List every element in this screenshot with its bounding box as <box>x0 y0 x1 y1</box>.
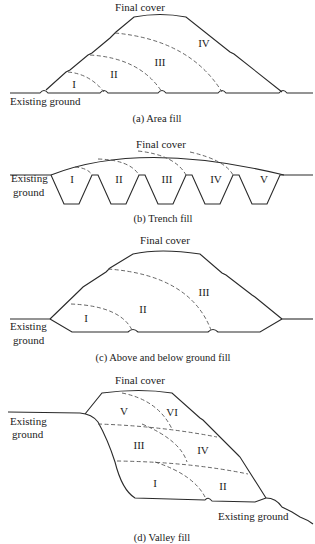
cell-boundary-1 <box>75 167 92 175</box>
cell-boundary-upper <box>122 393 172 429</box>
landfill-methods-diagram: Final cover Existing ground I II III IV … <box>0 0 315 544</box>
cell-label: III <box>134 439 145 451</box>
cell-label: II <box>139 303 147 315</box>
final-cover-label: Final cover <box>115 1 165 13</box>
cell-boundary-middle <box>142 424 187 462</box>
existing-ground-label: Existing <box>11 172 48 184</box>
panel-above-below-ground-fill: Final cover Existing ground I II III (c)… <box>10 234 313 364</box>
existing-ground-label: Existing ground <box>218 510 289 522</box>
cell-label: I <box>153 477 157 489</box>
existing-ground-label: Existing ground <box>10 95 81 107</box>
lift-boundary-lower <box>117 461 248 474</box>
fill-outline <box>46 15 282 93</box>
cell-boundary-lower <box>155 462 206 499</box>
cell-label: IV <box>198 37 210 49</box>
panel-trench-fill: Final cover Existing ground I II III IV … <box>10 138 313 225</box>
existing-ground-label: ground <box>13 334 45 346</box>
cell-label: II <box>115 173 123 185</box>
lift-boundary-upper <box>98 424 217 437</box>
cell-label: I <box>84 312 88 324</box>
cell-boundary-2 <box>108 269 211 330</box>
existing-ground-label: Existing <box>10 415 47 427</box>
existing-ground-left <box>8 412 266 502</box>
panel-caption: (b) Trench fill <box>134 213 193 225</box>
cell-label: VI <box>166 406 178 418</box>
panel-area-fill: Final cover Existing ground I II III IV … <box>10 1 313 125</box>
cell-label: V <box>120 405 128 417</box>
existing-ground-label: ground <box>13 186 45 198</box>
fill-outline <box>50 251 282 319</box>
panel-valley-fill: Final cover Existing ground Existing gro… <box>8 374 313 544</box>
cell-boundary-1 <box>71 304 132 330</box>
cell-label: III <box>155 56 166 68</box>
cell-boundary-2 <box>90 55 162 92</box>
cell-label: IV <box>210 173 222 185</box>
panel-caption: (d) Valley fill <box>134 532 190 544</box>
existing-ground-label: ground <box>12 428 44 440</box>
cell-label: II <box>219 480 227 492</box>
final-cover-label: Final cover <box>115 374 165 386</box>
final-cover-label: Final cover <box>136 138 186 150</box>
cell-label: III <box>162 173 173 185</box>
cell-label: IV <box>197 444 209 456</box>
cell-label: III <box>199 286 210 298</box>
panel-caption: (c) Above and below ground fill <box>95 352 230 364</box>
final-cover-label: Final cover <box>140 234 190 246</box>
cell-label: II <box>110 68 118 80</box>
cell-label: V <box>260 173 268 185</box>
existing-ground-line <box>10 91 313 94</box>
cell-boundary-3 <box>138 151 186 175</box>
existing-ground-label: Existing <box>10 320 47 332</box>
panel-caption: (a) Area fill <box>133 113 182 125</box>
cell-label: I <box>72 78 76 90</box>
cell-label: I <box>70 173 74 185</box>
